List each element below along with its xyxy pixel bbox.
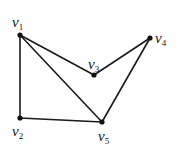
edge-v2-v5	[20, 118, 102, 122]
nodes-group	[17, 32, 152, 124]
edge-v3-v4	[94, 38, 150, 75]
vertex-label-v3: v3	[88, 56, 100, 74]
edge-v1-v5	[20, 35, 102, 122]
edges-group	[20, 35, 150, 122]
edge-v1-v3	[20, 35, 94, 75]
vertex-v2	[17, 115, 22, 120]
graph-diagram: v1v2v3v4v5	[0, 0, 179, 151]
vertex-v5	[99, 119, 104, 124]
vertex-label-v1: v1	[12, 14, 23, 32]
vertex-label-v5: v5	[98, 128, 110, 146]
labels-group: v1v2v3v4v5	[12, 14, 167, 146]
vertex-v4	[147, 35, 152, 40]
edge-v4-v5	[102, 38, 150, 122]
vertex-label-v2: v2	[12, 123, 23, 141]
vertex-label-v4: v4	[155, 30, 167, 48]
vertex-v1	[17, 32, 22, 37]
